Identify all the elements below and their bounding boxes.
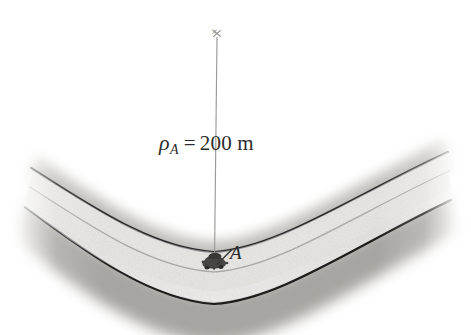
radius-value: 200 m (200, 131, 254, 155)
road-diagram-svg (0, 0, 471, 335)
rho-symbol: ρ (159, 130, 170, 155)
point-a-label: A (230, 243, 242, 262)
car-wheel-right (218, 265, 223, 269)
car-wheel-left (204, 266, 209, 270)
rho-subscript: A (170, 142, 179, 157)
figure-canvas: × ρA=200 m A (0, 0, 471, 335)
radius-of-curvature-label: ρA=200 m (159, 132, 254, 157)
equals-sign: = (184, 131, 196, 155)
center-of-curvature-label: × (211, 26, 218, 38)
